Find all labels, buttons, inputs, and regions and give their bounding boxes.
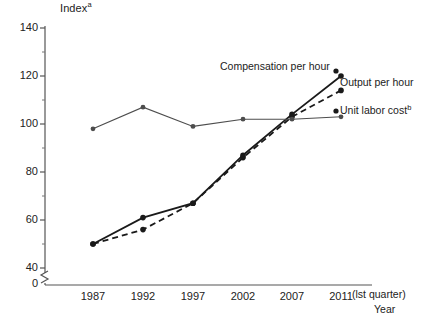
plot-area	[0, 0, 428, 327]
x-axis-tick-label: 2002	[221, 290, 265, 302]
series-label-output-text: Output per hour	[340, 76, 414, 88]
series-label-unit-labor-cost: Unit labor costb	[340, 104, 411, 116]
x-axis-title-text: Year	[374, 303, 395, 315]
x-axis-tick-label: 1992	[121, 290, 165, 302]
y-axis-tick-label: 100	[6, 117, 38, 129]
data-point	[191, 124, 196, 129]
y-axis-tick-label: 40	[6, 261, 38, 273]
series-label-compensation-text: Compensation per hour	[220, 60, 330, 72]
data-point	[290, 117, 295, 122]
series-label-output: Output per hour	[340, 76, 414, 88]
data-point	[240, 155, 246, 161]
x-axis-tick-label: 2007	[270, 290, 314, 302]
y-axis-zero-label: 0	[6, 277, 38, 289]
x-axis-quarter-note-text: (lst quarter)	[352, 288, 406, 300]
y-axis-break-marker	[41, 271, 48, 283]
y-axis-tick-label: 60	[6, 213, 38, 225]
series-label-marker-output	[333, 68, 338, 73]
data-point	[140, 215, 146, 221]
data-point	[338, 88, 344, 94]
x-axis-title: Year	[374, 303, 395, 315]
series-line-compensation-per-hour	[93, 76, 341, 244]
series-label-compensation: Compensation per hour	[220, 60, 330, 72]
x-axis-tick-label: 1997	[171, 290, 215, 302]
data-point	[241, 117, 246, 122]
x-axis-tick-label: 1987	[71, 290, 115, 302]
series-lines	[90, 68, 344, 246]
y-axis-title-text: Index	[60, 2, 87, 14]
series-line-output-per-hour	[93, 90, 341, 244]
data-point	[140, 227, 146, 233]
line-chart: Indexa 4060801001201400 1987199219972002…	[0, 0, 428, 327]
y-axis-title-superscript: a	[87, 0, 91, 9]
y-axis-tick-label: 140	[6, 21, 38, 33]
data-point	[91, 126, 96, 131]
y-axis-tick-label: 120	[6, 69, 38, 81]
data-point	[141, 105, 146, 110]
y-axis-tick-label: 80	[6, 165, 38, 177]
series-label-unit-labor-cost-text: Unit labor cost	[340, 104, 407, 116]
data-point	[190, 200, 196, 206]
x-axis-quarter-note: (lst quarter)	[352, 288, 406, 300]
y-axis-title: Indexa	[60, 2, 92, 14]
series-label-marker-unit-labor-cost	[333, 108, 338, 113]
data-point	[90, 241, 96, 247]
series-label-unit-labor-cost-superscript: b	[407, 103, 411, 112]
